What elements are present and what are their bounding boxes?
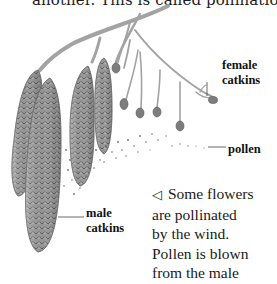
left-triangle-icon: ◁ [152,187,162,202]
figure-caption: ◁ Some flowers are pollinated by the win… [152,184,277,283]
female-catkins-label: female catkins [222,58,260,88]
pollen-label: pollen [228,142,261,157]
male-catkins-label: male catkins [86,206,124,236]
female-catkins [112,63,218,131]
